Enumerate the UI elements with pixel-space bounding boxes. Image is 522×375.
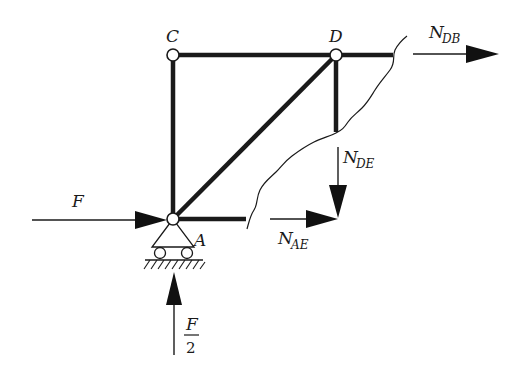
label-node-a: A [192, 230, 206, 250]
label-ndb: N DB [428, 22, 461, 46]
force-ndb-arrow [413, 45, 499, 63]
force-f-arrow [32, 211, 167, 229]
svg-text:2: 2 [186, 339, 196, 357]
label-nae: N AE [277, 228, 309, 252]
svg-text:DE: DE [355, 157, 375, 171]
svg-text:DB: DB [441, 32, 461, 46]
truss-diagram: C D A F F 2 N DB N DE N AE [0, 0, 522, 375]
label-node-d: D [328, 26, 343, 46]
svg-text:F: F [185, 314, 199, 334]
member-ad [173, 55, 336, 219]
ground-hatch [144, 260, 205, 269]
node-d [330, 49, 342, 61]
label-node-c: C [166, 26, 179, 46]
force-nae-arrow [270, 210, 338, 228]
svg-text:AE: AE [290, 238, 309, 252]
label-nde: N DE [342, 147, 375, 171]
reaction-arrow [166, 272, 182, 355]
node-c [167, 49, 179, 61]
label-force-f: F [71, 191, 85, 211]
node-a [167, 213, 179, 225]
label-reaction-fraction: F 2 [184, 314, 199, 357]
